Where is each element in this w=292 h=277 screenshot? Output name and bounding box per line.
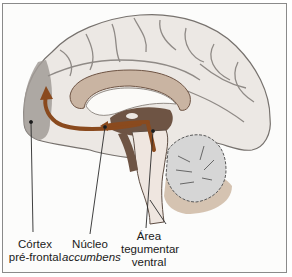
label-nucleus-accumbens: Núcleo accumbens — [62, 238, 118, 264]
label-prefrontal-cortex: Córtex pré-frontal — [8, 238, 62, 264]
label-ventral-tegmental-area: Área tegumentar ventral — [121, 230, 177, 269]
prefrontal-cortex-region — [24, 60, 52, 140]
cerebellum — [166, 135, 226, 202]
